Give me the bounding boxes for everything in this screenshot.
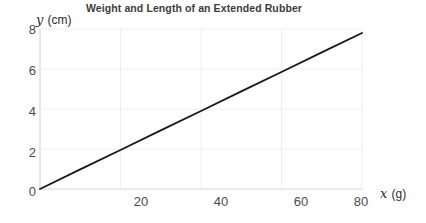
chart-container: Weight and Length of an Extended Rubber … <box>0 0 426 223</box>
plot-area <box>0 0 426 223</box>
